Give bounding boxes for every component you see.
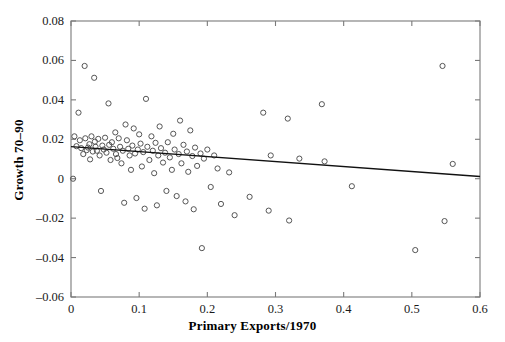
data-point <box>116 136 121 141</box>
data-point <box>113 130 118 135</box>
data-point <box>92 139 97 144</box>
data-point <box>192 145 197 150</box>
data-point <box>450 161 455 166</box>
data-point <box>167 155 172 160</box>
data-point <box>199 246 204 251</box>
x-axis-title: Primary Exports/1970 <box>0 318 505 334</box>
data-point <box>83 136 88 141</box>
y-axis-ticks <box>71 21 480 297</box>
data-point <box>349 184 354 189</box>
data-point <box>124 138 129 143</box>
data-point <box>108 157 113 162</box>
data-point <box>171 131 176 136</box>
data-point <box>285 116 290 121</box>
data-point <box>111 146 116 151</box>
data-point <box>157 124 162 129</box>
data-point <box>139 164 144 169</box>
data-point <box>218 201 223 206</box>
data-point <box>106 101 111 106</box>
data-point <box>188 128 193 133</box>
x-tick-label: 0.5 <box>387 303 437 316</box>
x-axis-ticks <box>71 21 480 297</box>
data-point <box>130 143 135 148</box>
data-point <box>137 132 142 137</box>
data-point <box>92 75 97 80</box>
x-tick-label: 0.3 <box>251 303 301 316</box>
x-tick-label: 0.2 <box>182 303 232 316</box>
data-point <box>174 193 179 198</box>
data-point <box>165 140 170 145</box>
data-point <box>98 188 103 193</box>
data-point <box>147 157 152 162</box>
data-point <box>319 102 324 107</box>
data-point <box>149 134 154 139</box>
data-point <box>169 167 174 172</box>
x-tick-label: 0 <box>46 303 96 316</box>
data-point <box>442 219 447 224</box>
data-point <box>172 147 177 152</box>
data-point <box>123 122 128 127</box>
plot-canvas <box>0 0 505 342</box>
data-point <box>154 203 159 208</box>
data-point <box>145 144 150 149</box>
data-point <box>186 169 191 174</box>
data-point <box>127 153 132 158</box>
x-tick-label: 0.4 <box>319 303 369 316</box>
data-point <box>205 147 210 152</box>
y-tick-label: –0.04 <box>6 252 64 265</box>
data-point <box>232 213 237 218</box>
data-point <box>142 206 147 211</box>
data-point <box>287 218 292 223</box>
data-point <box>131 126 136 131</box>
data-point <box>102 135 107 140</box>
data-point <box>143 96 148 101</box>
data-point <box>138 141 143 146</box>
data-point <box>268 153 273 158</box>
data-point <box>158 146 163 151</box>
data-point <box>87 142 92 147</box>
data-point <box>122 200 127 205</box>
data-point <box>266 208 271 213</box>
data-point <box>96 136 101 141</box>
data-point <box>261 110 266 115</box>
data-point <box>87 157 92 162</box>
data-point <box>160 160 165 165</box>
data-point <box>227 170 232 175</box>
y-tick-label: 0.08 <box>6 15 64 28</box>
data-point <box>215 166 220 171</box>
data-point <box>177 118 182 123</box>
data-point <box>77 138 82 143</box>
data-point <box>97 153 102 158</box>
data-point <box>164 188 169 193</box>
data-point-markers <box>70 63 455 252</box>
plot-border <box>71 21 480 297</box>
y-tick-label: –0.06 <box>6 291 64 304</box>
data-point <box>183 199 188 204</box>
data-point <box>191 207 196 212</box>
data-point <box>82 63 87 68</box>
data-point <box>208 184 213 189</box>
y-tick-label: 0.06 <box>6 54 64 67</box>
data-point <box>128 167 133 172</box>
data-point <box>195 163 200 168</box>
data-point <box>179 161 184 166</box>
y-axis-title: Growth 70–90 <box>11 100 27 220</box>
data-point <box>153 140 158 145</box>
data-point <box>181 142 186 147</box>
data-point <box>119 161 124 166</box>
data-point <box>247 194 252 199</box>
data-point <box>134 195 139 200</box>
axes-frame <box>71 21 480 297</box>
data-point <box>184 149 189 154</box>
x-tick-label: 0.6 <box>455 303 505 316</box>
data-point <box>152 171 157 176</box>
data-point <box>297 156 302 161</box>
data-point <box>76 110 81 115</box>
data-point <box>72 134 77 139</box>
data-point <box>413 247 418 252</box>
data-point <box>440 63 445 68</box>
data-point <box>322 159 327 164</box>
scatter-plot-figure: 0.080.060.040.020–0.02–0.04–0.06 00.10.2… <box>0 0 505 342</box>
x-tick-label: 0.1 <box>114 303 164 316</box>
data-point <box>89 134 94 139</box>
